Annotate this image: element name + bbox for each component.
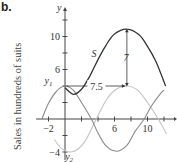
x-tick-label: −2 xyxy=(43,123,54,134)
y-axis-letter: y xyxy=(56,2,62,13)
y-axis-arrow-icon xyxy=(63,7,67,11)
series-s xyxy=(65,29,166,94)
label-s: S xyxy=(91,48,96,59)
chart-plot: y−2610106−4 Sy1y277.5 xyxy=(0,0,177,162)
annotation-shift: 7.5 xyxy=(90,81,103,92)
label-y1: y1 xyxy=(44,75,53,88)
arrow-head-right-icon xyxy=(122,84,126,88)
x-tick-label: 6 xyxy=(112,123,117,134)
x-axis-arrow-icon xyxy=(174,117,177,121)
x-tick-label: 10 xyxy=(143,123,153,134)
axes: y−2610106−4 xyxy=(36,2,177,160)
label-y2: y2 xyxy=(64,151,73,162)
y-tick-label: 10 xyxy=(50,31,60,42)
y-tick-label: −4 xyxy=(49,147,60,158)
y-tick-label: 6 xyxy=(55,64,60,75)
annotation-amplitude: 7 xyxy=(123,52,129,63)
